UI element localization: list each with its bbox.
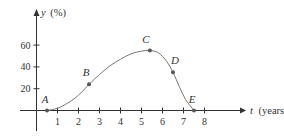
point-label-c: C bbox=[142, 33, 150, 45]
line-chart: t (years) y (%) 12345678 204060 ABCDE bbox=[0, 0, 284, 137]
point-label-e: E bbox=[188, 93, 196, 105]
point-label-a: A bbox=[41, 93, 49, 105]
x-tick-label: 1 bbox=[55, 116, 60, 127]
x-tick-label: 6 bbox=[160, 116, 165, 127]
y-axis-title: y (%) bbox=[40, 7, 67, 19]
y-tick-label: 20 bbox=[21, 83, 31, 94]
data-point-b bbox=[87, 82, 91, 86]
data-point-a bbox=[45, 109, 49, 113]
y-tick-label: 40 bbox=[21, 61, 31, 72]
x-axis-arrow-icon bbox=[240, 108, 246, 114]
y-axis-arrow-icon bbox=[34, 9, 40, 16]
x-tick-label: 2 bbox=[76, 116, 81, 127]
x-tick-label: 5 bbox=[139, 116, 144, 127]
point-label-b: B bbox=[83, 66, 90, 78]
data-points: ABCDE bbox=[41, 33, 196, 113]
data-point-c bbox=[148, 49, 152, 53]
data-point-e bbox=[192, 109, 196, 113]
x-tick-label: 7 bbox=[181, 116, 186, 127]
y-tick-label: 60 bbox=[21, 40, 31, 51]
data-point-d bbox=[171, 70, 175, 74]
x-tick-label: 4 bbox=[118, 116, 123, 127]
x-axis-title: t (years) bbox=[250, 105, 284, 117]
y-axis: y (%) bbox=[34, 7, 67, 131]
point-label-d: D bbox=[170, 54, 179, 66]
x-tick-label: 3 bbox=[97, 116, 102, 127]
x-tick-label: 8 bbox=[202, 116, 207, 127]
